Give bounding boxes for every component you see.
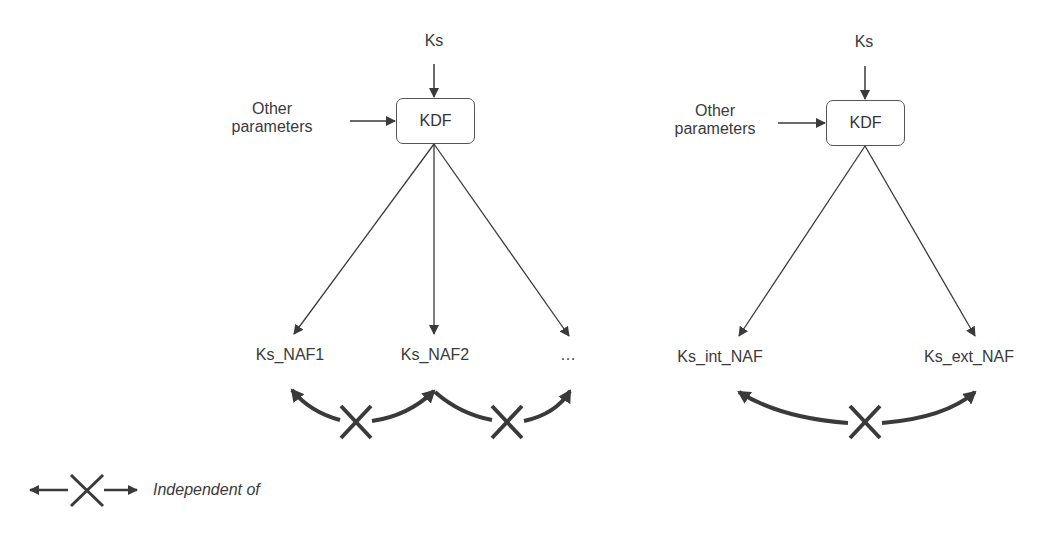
independence-curve-naf2-right xyxy=(435,392,492,420)
left-other-parameters-label: Other parameters xyxy=(218,100,326,137)
independence-cross-icon xyxy=(850,406,880,438)
right-ks-input-label: Ks xyxy=(855,33,874,51)
left-other-parameters-line2: parameters xyxy=(218,118,326,136)
output-ks-int-naf: Ks_int_NAF xyxy=(677,348,762,366)
legend-independence-symbol xyxy=(30,475,137,506)
right-other-parameters-line2: parameters xyxy=(660,120,770,138)
kdf-to-naf1-arrow xyxy=(294,144,434,334)
independence-curve-naf1 xyxy=(292,390,340,420)
independence-cross-icon xyxy=(492,406,522,438)
right-other-parameters-line1: Other xyxy=(660,102,770,120)
kdf-to-more-arrow xyxy=(434,144,569,336)
right-kdf-label: KDF xyxy=(850,114,882,132)
output-ks-naf1: Ks_NAF1 xyxy=(256,346,324,364)
output-ks-naf2: Ks_NAF2 xyxy=(401,346,469,364)
kdf-to-ext-naf-arrow xyxy=(865,146,975,336)
left-ks-input-label: Ks xyxy=(425,32,444,50)
left-kdf-box: KDF xyxy=(396,98,475,144)
independence-curve-naf2-left xyxy=(372,391,434,421)
legend-label: Independent of xyxy=(153,481,260,499)
output-ellipsis: … xyxy=(560,346,576,364)
left-kdf-label: KDF xyxy=(420,112,452,130)
diagram-canvas xyxy=(0,0,1038,540)
right-kdf-box: KDF xyxy=(826,100,905,146)
independence-curve-ext xyxy=(882,392,975,423)
independence-cross-icon xyxy=(341,406,371,438)
right-other-parameters-label: Other parameters xyxy=(660,102,770,139)
independence-curve-more xyxy=(524,391,570,421)
left-other-parameters-line1: Other xyxy=(218,100,326,118)
independence-curve-int xyxy=(739,392,848,423)
kdf-to-int-naf-arrow xyxy=(739,146,865,336)
output-ks-ext-naf: Ks_ext_NAF xyxy=(924,348,1014,366)
